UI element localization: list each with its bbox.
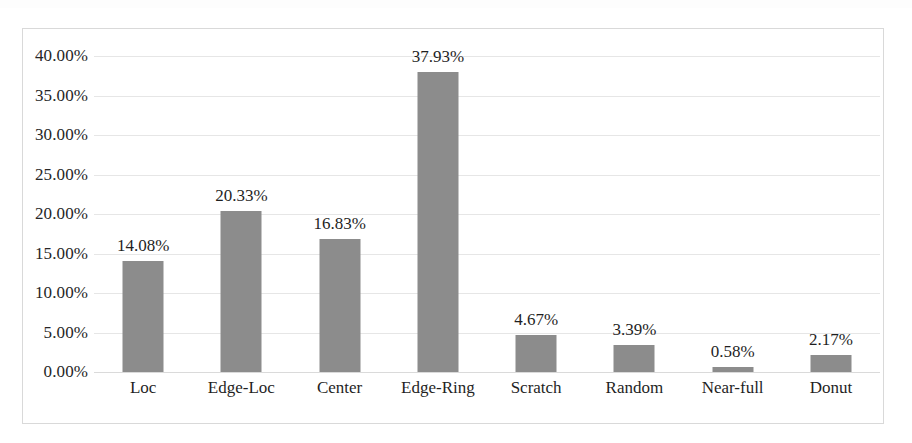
bar-value-label: 37.93%: [412, 47, 464, 67]
y-axis-tick-label: 20.00%: [35, 204, 88, 224]
y-axis-tick-label: 40.00%: [35, 46, 88, 66]
y-axis-tick-label: 0.00%: [44, 362, 88, 382]
y-axis-tick-label: 30.00%: [35, 125, 88, 145]
bar-value-label: 3.39%: [612, 320, 656, 340]
bar: [417, 72, 458, 372]
bar-value-label: 4.67%: [514, 310, 558, 330]
bar-value-label: 0.58%: [711, 342, 755, 362]
bar-group: 14.08%: [94, 56, 192, 372]
y-axis: 0.00%5.00%10.00%15.00%20.00%25.00%30.00%…: [30, 56, 88, 372]
bar-value-label: 14.08%: [117, 236, 169, 256]
x-axis-tick-label: Scratch: [487, 378, 585, 398]
bar-group: 37.93%: [389, 56, 487, 372]
x-axis-tick-label: Edge-Loc: [192, 378, 290, 398]
x-axis-tick-label: Random: [585, 378, 683, 398]
gridline: [94, 372, 880, 373]
x-axis-tick-label: Loc: [94, 378, 192, 398]
y-axis-tick-label: 15.00%: [35, 244, 88, 264]
bar-group: 20.33%: [192, 56, 290, 372]
x-axis: LocEdge-LocCenterEdge-RingScratchRandomN…: [94, 378, 880, 406]
bar-series: 14.08%20.33%16.83%37.93%4.67%3.39%0.58%2…: [94, 56, 880, 372]
bar-group: 3.39%: [585, 56, 683, 372]
bar-group: 2.17%: [782, 56, 880, 372]
x-axis-tick-label: Center: [291, 378, 389, 398]
x-axis-tick-label: Near-full: [684, 378, 782, 398]
bar: [516, 335, 557, 372]
bar-group: 4.67%: [487, 56, 585, 372]
bar: [221, 211, 262, 372]
bar-value-label: 16.83%: [313, 214, 365, 234]
bar-group: 0.58%: [684, 56, 782, 372]
y-axis-tick-label: 10.00%: [35, 283, 88, 303]
bar: [712, 367, 753, 372]
x-axis-tick-label: Donut: [782, 378, 880, 398]
bar-value-label: 2.17%: [809, 330, 853, 350]
y-axis-tick-label: 25.00%: [35, 165, 88, 185]
bar: [614, 345, 655, 372]
bar: [123, 261, 164, 372]
bar-group: 16.83%: [291, 56, 389, 372]
bar: [810, 355, 851, 372]
y-axis-tick-label: 5.00%: [44, 323, 88, 343]
y-axis-tick-label: 35.00%: [35, 86, 88, 106]
scan-edge-artifact: [0, 0, 912, 8]
bar-value-label: 20.33%: [215, 186, 267, 206]
x-axis-tick-label: Edge-Ring: [389, 378, 487, 398]
bar: [319, 239, 360, 372]
